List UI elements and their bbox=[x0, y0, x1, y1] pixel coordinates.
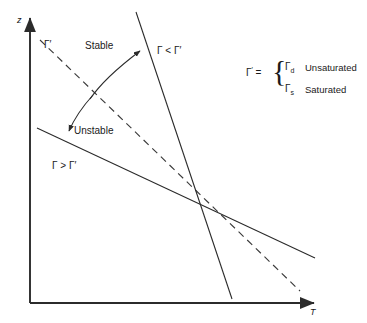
unstable-condition-relation: > bbox=[60, 160, 66, 171]
unstable-condition-gamma: Γ bbox=[52, 160, 58, 171]
unstable-condition-label: Γ > Γ′ bbox=[52, 161, 76, 171]
legend-row-0-subscript: d bbox=[291, 67, 295, 74]
stable-condition-label: Γ < Γ′ bbox=[157, 46, 181, 56]
legend-row-1-subscript: s bbox=[291, 89, 295, 96]
z-axis-label: z bbox=[17, 16, 22, 25]
unstable-lapse-rate-line bbox=[37, 128, 315, 258]
legend-row-1-description: Saturated bbox=[305, 85, 346, 95]
reference-adiabat-gamma: Γ′ bbox=[44, 39, 51, 50]
legend-row-1-symbol: Γs bbox=[285, 84, 294, 96]
legend-row-0-description: Unsaturated bbox=[305, 63, 357, 73]
stable-condition-gamma: Γ bbox=[157, 45, 163, 56]
legend-row-0-symbol: Γd bbox=[285, 62, 294, 74]
stability-diagram-figure: z T Γ′ Stable Γ < Γ′ Unstable Γ > Γ′ Γ′ … bbox=[0, 0, 367, 323]
stable-lapse-rate-line bbox=[136, 12, 232, 299]
stable-arrow bbox=[90, 51, 140, 99]
legend-equals: = bbox=[256, 67, 262, 78]
unstable-condition-reference: Γ′ bbox=[69, 160, 76, 171]
stable-condition-relation: < bbox=[165, 45, 171, 56]
unstable-region-label: Unstable bbox=[74, 126, 113, 136]
legend-lhs: Γ′ = bbox=[246, 66, 261, 78]
t-axis-label: T bbox=[310, 308, 316, 317]
stable-region-label: Stable bbox=[85, 41, 113, 51]
stable-condition-reference: Γ′ bbox=[174, 45, 181, 56]
legend-lhs-prime: ′ bbox=[252, 66, 253, 73]
reference-adiabat-label: Γ′ bbox=[44, 40, 51, 50]
